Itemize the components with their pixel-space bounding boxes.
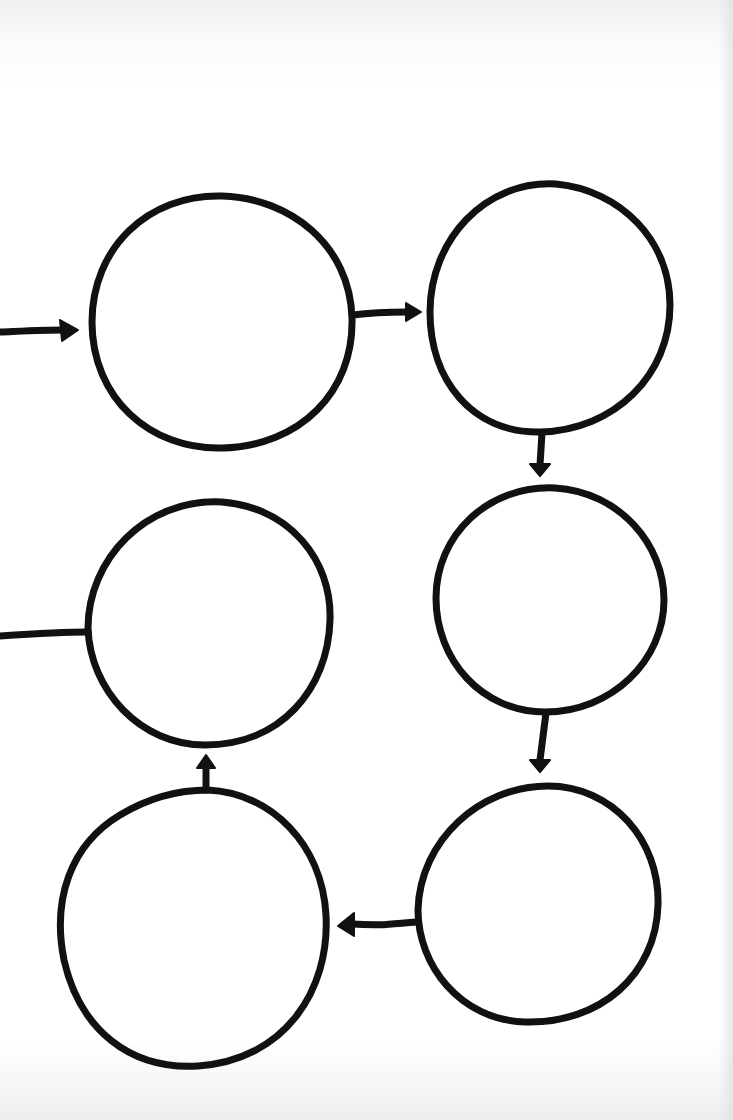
worksheet-page	[0, 0, 733, 1120]
arrowhead-icon	[338, 913, 354, 936]
node-circle-bottom-left	[60, 790, 326, 1066]
arrow-top-left-to-top-right	[353, 303, 421, 321]
node-circle-bottom-right	[418, 786, 658, 1022]
line-middle-left-exit	[0, 632, 88, 636]
arrowhead-icon	[530, 464, 550, 476]
arrowhead-icon	[60, 320, 78, 341]
node-circle-middle-left	[88, 502, 330, 745]
arrowhead-icon	[406, 303, 421, 321]
arrowhead-icon	[530, 760, 550, 772]
arrow-top-right-to-middle-right	[530, 433, 550, 476]
arrow-bottom-left-to-middle-left	[197, 755, 215, 790]
flow-diagram	[0, 0, 733, 1120]
arrow-middle-right-to-bottom-right	[530, 713, 550, 772]
node-circle-top-left	[92, 196, 352, 448]
arrow-entry-to-top-left	[0, 320, 78, 341]
node-circle-middle-right	[436, 488, 664, 712]
arrow-bottom-right-to-bottom-left	[338, 913, 416, 936]
arrowhead-icon	[197, 755, 215, 768]
node-circle-top-right	[430, 184, 670, 432]
